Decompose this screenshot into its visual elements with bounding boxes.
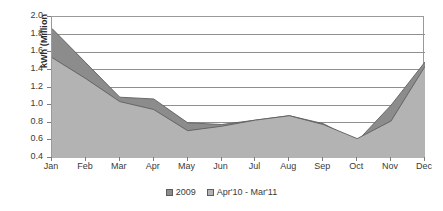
- series-areas: [52, 28, 425, 158]
- y-axis-tick-label: 1.0: [19, 99, 43, 108]
- legend-item[interactable]: 2009: [166, 188, 196, 197]
- series-area-apr10-mar11: [52, 58, 425, 158]
- chart-legend: 2009Apr'10 - Mar'11: [0, 188, 443, 197]
- legend-item[interactable]: Apr'10 - Mar'11: [207, 188, 277, 197]
- y-axis-tick-label: 1.4: [19, 64, 43, 73]
- y-axis-tick-label: 0.8: [19, 117, 43, 126]
- x-axis-tick-label: Jun: [204, 161, 238, 171]
- x-axis-tick-label: Sep: [305, 161, 339, 171]
- y-axis-tick-label: 1.6: [19, 46, 43, 55]
- x-axis-tick-label: Jul: [237, 161, 271, 171]
- x-axis-tick-label: Nov: [373, 161, 407, 171]
- x-axis-tick-label: Apr: [136, 161, 170, 171]
- energy-usage-area-chart: kWh (Million 2.01.81.61.41.21.00.80.60.4…: [0, 0, 443, 211]
- legend-label: 2009: [176, 188, 196, 197]
- x-axis-tick-label: Aug: [271, 161, 305, 171]
- x-axis-tick-label: Jan: [34, 161, 68, 171]
- x-axis-tick-label: Mar: [102, 161, 136, 171]
- y-axis-tick-label: 0.4: [19, 152, 43, 161]
- x-axis-tick-label: Oct: [339, 161, 373, 171]
- x-axis-tick-label: Feb: [68, 161, 102, 171]
- plot-area: [51, 16, 424, 157]
- legend-label: Apr'10 - Mar'11: [217, 188, 277, 197]
- legend-color-swatch: [207, 189, 214, 196]
- y-axis-tick-label: 2.0: [19, 11, 43, 20]
- y-axis-tick-label: 0.6: [19, 134, 43, 143]
- x-axis-tick-label: May: [170, 161, 204, 171]
- plot-svg: [52, 17, 425, 158]
- legend-color-swatch: [166, 189, 173, 196]
- y-axis-tick-label: 1.8: [19, 29, 43, 38]
- y-axis-tick-label: 1.2: [19, 82, 43, 91]
- x-axis-tick-label: Dec: [407, 161, 441, 171]
